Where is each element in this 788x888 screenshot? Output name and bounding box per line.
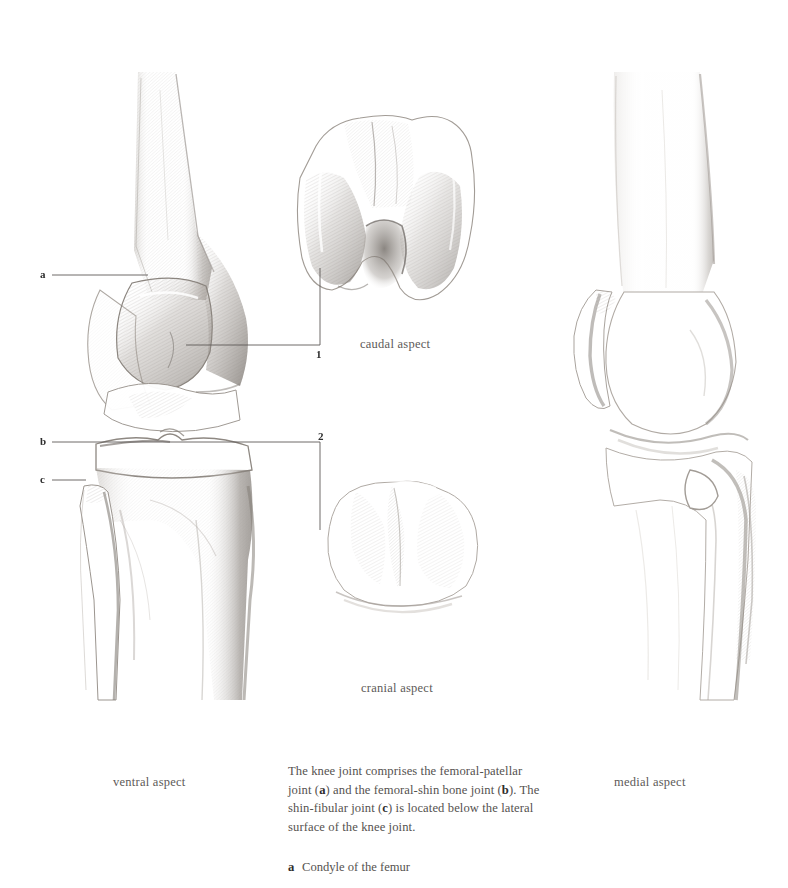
description-text: The knee joint comprises the femoral-pat… xyxy=(288,762,540,836)
anatomical-illustrations xyxy=(0,0,788,888)
caption-cranial-aspect: cranial aspect xyxy=(361,681,433,696)
legend-list: a Condyle of the femur xyxy=(288,858,588,877)
leader-label-2: 2 xyxy=(318,431,324,442)
legend-row: a Condyle of the femur xyxy=(288,858,588,877)
leader-label-c: c xyxy=(40,474,45,485)
medial-knee-drawing xyxy=(574,72,756,700)
cranial-tibia-drawing xyxy=(328,480,478,612)
leader-label-b: b xyxy=(40,436,46,447)
figure-stage xyxy=(0,0,788,888)
description-rich: The knee joint comprises the femoral-pat… xyxy=(288,764,539,834)
anatomy-plate-page: a b c 1 2 ventral aspect caudal aspect c… xyxy=(0,0,788,888)
leader-label-1: 1 xyxy=(316,349,322,360)
legend-key-a: a xyxy=(288,858,295,877)
legend-label-a: Condyle of the femur xyxy=(302,858,410,877)
caption-ventral-aspect: ventral aspect xyxy=(113,775,186,790)
caudal-femur-drawing xyxy=(297,115,474,299)
leader-label-a: a xyxy=(40,269,46,280)
caption-caudal-aspect: caudal aspect xyxy=(360,337,430,352)
description-key-b: b xyxy=(502,783,509,797)
caption-medial-aspect: medial aspect xyxy=(614,775,686,790)
ventral-knee-drawing xyxy=(80,72,254,700)
